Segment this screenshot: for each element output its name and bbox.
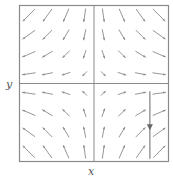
vector-arrow xyxy=(83,145,86,158)
vector-arrow xyxy=(119,127,125,137)
vector-arrow xyxy=(118,109,125,116)
vector-arrow xyxy=(102,127,105,138)
vector-arrow xyxy=(153,128,166,137)
vector-arrow xyxy=(23,9,35,21)
vector-field-plot: y x xyxy=(0,0,173,176)
vector-arrow xyxy=(118,51,125,58)
arrow-head xyxy=(123,92,126,94)
vector-arrow xyxy=(83,29,86,40)
vector-arrow xyxy=(22,92,35,95)
vector-arrow xyxy=(136,9,145,22)
vector-arrow xyxy=(118,92,126,95)
vector-arrow xyxy=(136,30,146,40)
trajectory-arrowhead xyxy=(147,124,153,130)
arrow-head xyxy=(83,109,85,112)
vector-arrow xyxy=(152,92,165,95)
vector-arrow xyxy=(62,72,70,75)
vector-arrow xyxy=(102,50,105,58)
vector-arrow xyxy=(82,91,87,96)
trajectory xyxy=(147,91,153,158)
vector-arrow xyxy=(43,9,52,22)
vector-arrow xyxy=(42,110,52,116)
vector-arrow xyxy=(43,145,52,158)
vector-arrow xyxy=(135,51,145,57)
vector-arrow xyxy=(42,92,53,95)
vector-arrow xyxy=(135,110,145,116)
arrow-head xyxy=(62,73,65,75)
arrow-head xyxy=(62,92,65,94)
arrow-head xyxy=(123,73,126,75)
vector-arrow xyxy=(63,127,69,137)
vector-arrow xyxy=(23,128,36,137)
vector-arrow xyxy=(102,109,105,117)
vector-arrow xyxy=(101,91,106,96)
vector-arrow xyxy=(119,9,125,22)
vector-arrow xyxy=(42,51,52,57)
vector-arrow xyxy=(83,50,86,58)
vector-arrow xyxy=(136,127,146,137)
vector-arrow xyxy=(102,145,105,158)
vector-arrow xyxy=(22,51,35,57)
vector-arrow xyxy=(135,73,146,76)
vector-arrow xyxy=(22,110,35,116)
vector-arrow xyxy=(23,30,36,39)
vector-arrow xyxy=(22,73,35,76)
vector-arrow xyxy=(63,30,69,40)
vector-arrow xyxy=(83,9,86,22)
arrow-head xyxy=(83,56,85,59)
vector-arrow xyxy=(119,30,125,40)
vector-arrow xyxy=(83,109,86,117)
vector-arrow xyxy=(62,92,70,95)
vector-arrow xyxy=(23,146,35,158)
x-axis-label: x xyxy=(88,165,95,176)
vector-arrow xyxy=(135,92,146,95)
y-axis-label: y xyxy=(5,78,13,91)
vector-arrow xyxy=(83,127,86,138)
vector-arrow xyxy=(101,71,106,76)
vector-arrow xyxy=(82,71,87,76)
vector-arrow xyxy=(62,109,69,116)
vector-arrow xyxy=(153,30,166,39)
vector-arrow xyxy=(62,51,69,58)
vector-arrow xyxy=(153,9,165,21)
vector-arrow xyxy=(119,145,125,158)
vector-arrow xyxy=(153,110,166,116)
arrow-head xyxy=(103,56,105,59)
vector-arrow xyxy=(42,73,53,76)
vector-arrow xyxy=(153,51,166,57)
vector-arrow xyxy=(102,29,105,40)
vector-arrow xyxy=(63,9,69,22)
vector-arrow xyxy=(63,145,69,158)
vector-arrow xyxy=(43,30,53,40)
vector-arrow xyxy=(118,72,126,75)
vector-arrow xyxy=(152,73,165,76)
arrow-head xyxy=(103,109,105,112)
vector-arrow xyxy=(153,146,165,158)
vector-arrow xyxy=(102,9,105,22)
vector-arrow xyxy=(136,145,145,158)
vector-arrow xyxy=(43,127,53,137)
